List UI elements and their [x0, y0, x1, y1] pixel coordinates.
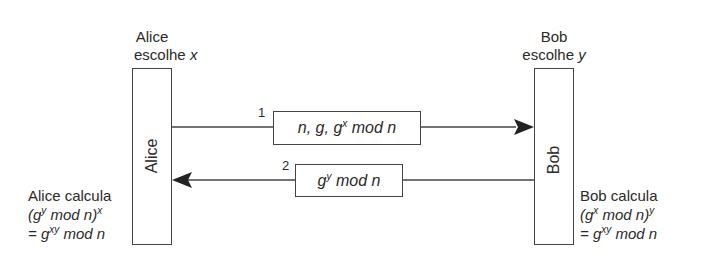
alice-name-label: Alice [112, 28, 192, 46]
bob-secret-var: y [578, 46, 586, 63]
bob-choose-label: escolhe y [512, 46, 596, 64]
bob-calc-line1: (gx mod n)y [580, 205, 658, 224]
message-1-box: n, g, gx mod n [273, 111, 421, 145]
message-1-step-number: 1 [258, 105, 265, 120]
alice-calc-line1: (gy mod n)x [28, 205, 111, 224]
bob-box-label: Bob [544, 130, 564, 190]
alice-calc-title: Alice calcula [28, 186, 111, 205]
alice-secret-var: x [190, 46, 198, 63]
bob-calc-title: Bob calcula [580, 186, 658, 205]
alice-calculation: Alice calcula (gy mod n)x = gxy mod n [28, 186, 111, 243]
bob-header: Bob escolhe y [512, 28, 596, 64]
alice-calc-line2: = gxy mod n [28, 224, 111, 243]
bob-name-label: Bob [512, 28, 596, 46]
bob-calculation: Bob calcula (gx mod n)y = gxy mod n [580, 186, 658, 243]
message-2-box: gy mod n [295, 164, 403, 197]
message-2-text: gy mod n [318, 172, 381, 190]
alice-choose-label: escolhe x [134, 46, 192, 64]
message-2-step-number: 2 [282, 158, 289, 173]
arrowhead-right-icon [514, 119, 534, 135]
message-1-text: n, g, gx mod n [298, 119, 396, 137]
alice-box-label: Alice [142, 126, 162, 186]
alice-header: Alice escolhe x [112, 28, 192, 64]
bob-calc-line2: = gxy mod n [580, 224, 658, 243]
